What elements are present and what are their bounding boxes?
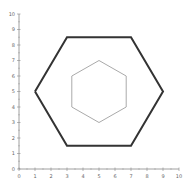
- y-tick-label: 3: [12, 119, 15, 125]
- y-tick-label: 10: [9, 11, 15, 17]
- x-tick-label: 1: [33, 173, 36, 179]
- y-tick-label: 2: [12, 135, 15, 141]
- x-tick-label: 2: [49, 173, 52, 179]
- x-tick-label: 9: [161, 173, 164, 179]
- x-tick-label: 4: [81, 173, 84, 179]
- x-tick-label: 7: [129, 173, 132, 179]
- x-tick-label: 8: [145, 173, 148, 179]
- x-tick-label: 5: [97, 173, 100, 179]
- x-axis: 012345678910: [17, 168, 182, 180]
- plot-series: [35, 37, 163, 146]
- y-tick-label: 0: [12, 166, 15, 172]
- y-tick-label: 5: [12, 88, 15, 94]
- x-tick-label: 10: [176, 173, 182, 179]
- y-tick-label: 1: [12, 150, 15, 156]
- outer-hexagon-line: [35, 37, 163, 146]
- hexagon-chart: 012345678910 012345678910: [0, 0, 191, 186]
- inner-hexagon-line: [72, 61, 126, 123]
- y-tick-label: 8: [12, 42, 15, 48]
- y-tick-label: 4: [12, 104, 15, 110]
- y-tick-label: 6: [12, 73, 15, 79]
- x-tick-label: 6: [113, 173, 116, 179]
- x-tick-label: 3: [65, 173, 68, 179]
- y-axis: 012345678910: [9, 11, 21, 172]
- x-tick-label: 0: [17, 173, 20, 179]
- y-tick-label: 9: [12, 26, 15, 32]
- y-tick-label: 7: [12, 57, 15, 63]
